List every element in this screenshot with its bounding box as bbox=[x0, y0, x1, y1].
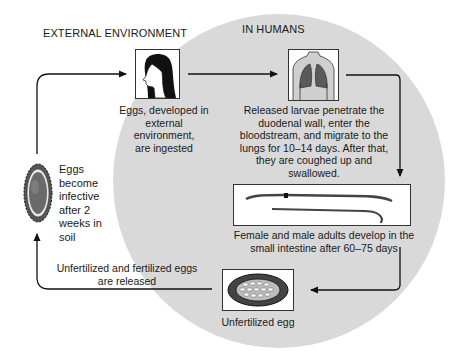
lungs-image bbox=[288, 49, 339, 101]
unfertilized-egg-caption: Unfertilized egg bbox=[212, 316, 304, 329]
adults-caption: Female and male adults develop in the sm… bbox=[228, 229, 420, 254]
lungs-torso-icon bbox=[289, 50, 338, 100]
ingestion-caption: Eggs, developed in external environment,… bbox=[118, 104, 210, 154]
infective-caption: Eggs become infective after 2 weeks in s… bbox=[59, 163, 109, 244]
adult-worms-icon bbox=[234, 185, 410, 225]
unfertilized-egg-icon bbox=[223, 270, 293, 310]
release-caption: Unfertilized and fertilized eggs are rel… bbox=[42, 262, 212, 287]
lungs-caption: Released larvae penetrate the duodenal w… bbox=[238, 104, 390, 179]
adults-image bbox=[233, 184, 411, 226]
ingestion-image bbox=[135, 49, 180, 99]
unfertilized-egg-image bbox=[222, 269, 294, 311]
fertilized-egg-icon bbox=[22, 162, 54, 224]
woman-head-profile-icon bbox=[136, 50, 179, 98]
